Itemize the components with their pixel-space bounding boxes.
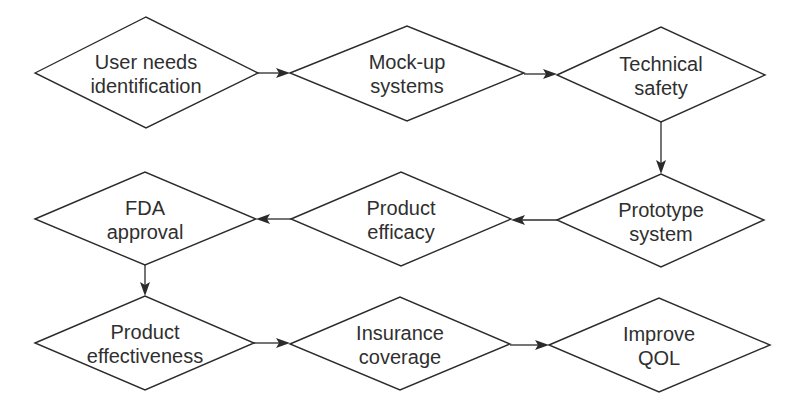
arrow-n6-to-n7 xyxy=(140,265,150,296)
node-technical-safety: Technical safety xyxy=(557,27,765,122)
node-label-line2: QOL xyxy=(638,347,680,369)
node-prototype-system: Prototype system xyxy=(557,174,764,267)
node-label-line1: Insurance xyxy=(356,322,444,344)
arrow-n3-to-n4 xyxy=(656,122,666,174)
node-label-line1: Improve xyxy=(623,323,695,345)
node-label-line2: identification xyxy=(90,75,201,97)
node-product-effectiveness: Product effectiveness xyxy=(35,296,254,390)
diamond-shape xyxy=(549,298,770,392)
diamond-shape xyxy=(35,296,254,390)
node-label-line2: system xyxy=(629,223,692,245)
arrow-n5-to-n6 xyxy=(256,214,291,224)
diamond-shape xyxy=(291,172,511,266)
diamond-shape xyxy=(290,26,524,121)
node-label-line1: Product xyxy=(111,321,180,343)
flowchart-canvas: User needs identification Mock-up system… xyxy=(0,0,799,413)
arrow-n1-to-n2 xyxy=(258,68,290,78)
node-label-line2: coverage xyxy=(359,346,441,368)
node-label-line2: approval xyxy=(107,221,184,243)
arrow-n7-to-n8 xyxy=(254,338,290,348)
node-mock-up-systems: Mock-up systems xyxy=(290,26,524,121)
node-label-line1: Technical xyxy=(619,53,702,75)
node-insurance-coverage: Insurance coverage xyxy=(290,297,510,390)
node-label-line1: Prototype xyxy=(618,199,704,221)
node-label-line1: User needs xyxy=(95,51,197,73)
node-product-efficacy: Product efficacy xyxy=(291,172,511,266)
node-user-needs-identification: User needs identification xyxy=(35,17,258,128)
arrow-n2-to-n3 xyxy=(524,69,557,79)
arrow-n4-to-n5 xyxy=(511,215,557,225)
node-label-line1: Mock-up xyxy=(369,51,446,73)
node-label-line2: systems xyxy=(370,75,443,97)
node-fda-approval: FDA approval xyxy=(35,172,256,265)
node-improve-qol: Improve QOL xyxy=(549,298,770,392)
arrow-n8-to-n9 xyxy=(510,340,549,350)
node-label-line1: FDA xyxy=(125,197,166,219)
node-label-line2: efficacy xyxy=(367,221,434,243)
node-label-line1: Product xyxy=(367,197,436,219)
node-label-line2: safety xyxy=(634,77,687,99)
node-label-line2: effectiveness xyxy=(87,345,203,367)
